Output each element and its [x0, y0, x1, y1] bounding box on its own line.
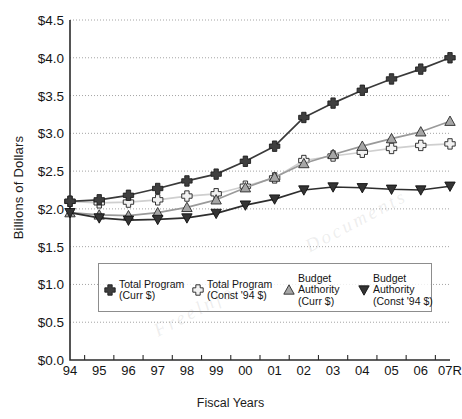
data-point-marker	[359, 286, 369, 295]
legend-marker-icon	[191, 283, 205, 297]
data-point-marker	[182, 176, 192, 186]
legend-label: BudgetAuthority(Curr $)	[298, 273, 339, 308]
data-point-marker	[182, 191, 192, 201]
data-point-marker	[357, 85, 367, 95]
legend-marker-icon	[103, 283, 117, 297]
data-point-marker	[386, 74, 396, 84]
data-point-marker	[65, 196, 75, 206]
data-point-marker	[105, 285, 115, 295]
data-point-marker	[445, 116, 455, 125]
legend-item[interactable]: Total Program(Curr $)	[103, 268, 184, 312]
data-point-marker	[328, 98, 338, 108]
legend-marker-icon	[282, 283, 296, 297]
legend-label: Total Program(Const '94 $)	[207, 279, 272, 302]
data-point-marker	[211, 169, 221, 179]
data-point-marker	[284, 285, 294, 294]
legend-label: BudgetAuthority(Const '94 $)	[373, 273, 433, 308]
data-point-marker	[445, 53, 455, 63]
data-point-marker	[152, 195, 162, 205]
data-point-marker	[445, 139, 455, 149]
chart-legend: Total Program(Curr $)Total Program(Const…	[98, 263, 432, 312]
data-point-marker	[152, 183, 162, 193]
data-point-marker	[123, 190, 133, 200]
legend-label: Total Program(Curr $)	[119, 279, 184, 302]
legend-item[interactable]: BudgetAuthority(Const '94 $)	[357, 268, 433, 312]
data-point-marker	[240, 156, 250, 166]
data-point-marker	[416, 64, 426, 74]
data-point-marker	[386, 143, 396, 153]
legend-marker-icon	[357, 283, 371, 297]
data-point-marker	[193, 285, 203, 295]
data-series	[65, 53, 455, 207]
legend-item[interactable]: Total Program(Const '94 $)	[191, 268, 272, 312]
legend-item[interactable]: BudgetAuthority(Curr $)	[282, 268, 339, 312]
data-point-marker	[416, 140, 426, 150]
